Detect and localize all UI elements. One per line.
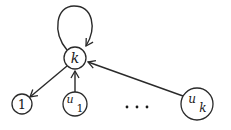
ellipsis bbox=[126, 106, 149, 109]
edge-k-self-loop bbox=[58, 6, 92, 50]
graph-diagram: k 1 u 1 u k bbox=[0, 0, 231, 130]
edge-k-to-1 bbox=[30, 66, 67, 97]
node-u1-label-sub: 1 bbox=[77, 102, 84, 115]
node-uk-label-sub: k bbox=[199, 101, 206, 115]
edge-uk-to-k bbox=[88, 62, 183, 96]
node-1: 1 bbox=[12, 94, 32, 114]
node-uk-circle bbox=[181, 88, 213, 120]
node-1-label: 1 bbox=[18, 97, 26, 112]
node-uk-label-main: u bbox=[188, 92, 196, 106]
node-k: k bbox=[64, 47, 86, 69]
node-u1-label-main: u bbox=[66, 93, 73, 106]
node-uk: u k bbox=[181, 88, 213, 120]
node-u1: u 1 bbox=[63, 92, 87, 116]
node-k-label: k bbox=[71, 50, 79, 66]
